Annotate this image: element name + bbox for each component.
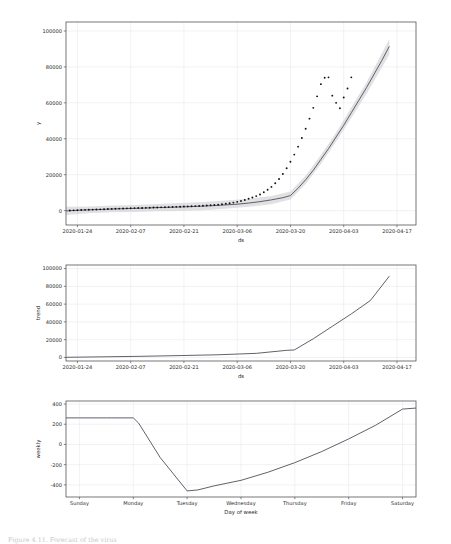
x-tick-label: 2020-03-20 [276, 364, 306, 370]
x-tick-label: 2020-02-21 [169, 228, 199, 234]
weekly-panel: -400-2000200400SundayMondayTuesdayWednes… [0, 392, 451, 527]
y-axis-title: trend [35, 306, 41, 320]
x-tick-label: 2020-02-21 [169, 364, 199, 370]
x-tick-label: 2020-03-06 [222, 364, 252, 370]
axis-frame [66, 22, 416, 225]
x-tick-label: 2020-04-17 [382, 228, 412, 234]
y-tick-label: 60000 [46, 100, 62, 106]
x-tick-label: 2020-04-03 [329, 228, 359, 234]
weekly-plot: -400-2000200400SundayMondayTuesdayWednes… [0, 392, 451, 527]
x-axis-title: ds [238, 237, 244, 243]
x-tick-label: 2020-04-17 [382, 364, 412, 370]
y-tick-label: 0 [59, 354, 62, 360]
y-tick-label: 0 [59, 208, 62, 214]
x-tick-label: Monday [123, 500, 143, 507]
x-tick-label: 2020-02-07 [116, 228, 146, 234]
y-tick-label: 80000 [46, 283, 62, 289]
x-tick-label: 2020-04-03 [329, 364, 359, 370]
forecast-panel: 0200004000060000800001000002020-01-24202… [0, 0, 451, 255]
prophet-forecast-figure: 0200004000060000800001000002020-01-24202… [0, 0, 451, 544]
series-line-trend [66, 276, 389, 357]
uncertainty-band [66, 39, 389, 215]
x-axis-title: Day of week [224, 509, 258, 516]
x-tick-label: Tuesday [176, 500, 198, 507]
y-tick-label: 100000 [43, 28, 62, 34]
y-tick-label: 40000 [46, 319, 62, 325]
observation-points [69, 76, 352, 211]
y-tick-label: 20000 [46, 337, 62, 343]
trend-panel: 0200004000060000800001000002020-01-24202… [0, 256, 451, 391]
y-tick-label: -400 [50, 482, 62, 488]
figure-caption: Figure 4.11. Forecast of the virus [8, 536, 117, 544]
y-tick-label: 80000 [46, 64, 62, 70]
trend-plot: 0200004000060000800001000002020-01-24202… [0, 256, 451, 391]
y-tick-label: 100000 [43, 265, 62, 271]
x-tick-label: 2020-01-24 [63, 228, 93, 234]
x-tick-label: Friday [341, 500, 356, 507]
y-tick-label: 0 [59, 441, 62, 447]
x-tick-label: 2020-03-20 [276, 228, 306, 234]
y-tick-label: 40000 [46, 136, 62, 142]
x-tick-label: 2020-02-07 [116, 364, 146, 370]
y-tick-label: 200 [52, 421, 62, 427]
x-axis-title: ds [238, 373, 244, 379]
y-tick-label: 60000 [46, 301, 62, 307]
x-tick-label: Sunday [70, 500, 89, 507]
y-tick-label: 20000 [46, 172, 62, 178]
axis-frame [66, 265, 416, 361]
y-tick-label: -200 [50, 462, 62, 468]
x-tick-label: Wednesday [226, 500, 256, 507]
x-tick-label: 2020-01-24 [63, 364, 93, 370]
y-axis-title: weekly [35, 439, 42, 459]
y-axis-title: y [35, 121, 42, 125]
x-tick-label: Saturday [391, 500, 414, 507]
forecast-plot: 0200004000060000800001000002020-01-24202… [0, 0, 451, 255]
y-tick-label: 400 [52, 401, 62, 407]
x-tick-label: Thursday [282, 500, 307, 507]
x-tick-label: 2020-03-06 [222, 228, 252, 234]
